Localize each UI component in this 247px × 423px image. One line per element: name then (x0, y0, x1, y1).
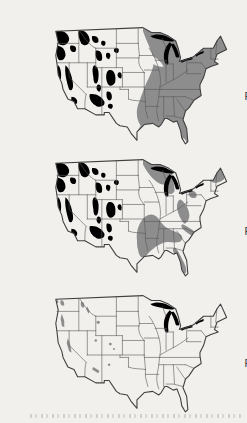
forest-maps-figure: Virgin Forests 1620 Virgin (0, 0, 247, 423)
us-map-today (46, 292, 234, 418)
map-label-1850: Virgin Forests 1850 (236, 213, 247, 249)
map-label-line: Virgin (236, 213, 247, 225)
map-label-line: Virgin (236, 345, 247, 357)
map-label-line: Today (236, 369, 247, 381)
map-label-line: Forests (236, 357, 247, 369)
map-label-line: Forests (236, 225, 247, 237)
map-virgin-forests-today: Virgin Forests Today (46, 292, 247, 423)
map-label-today: Virgin Forests Today (236, 345, 247, 381)
map-label-line: Virgin (236, 78, 247, 90)
map-virgin-forests-1620: Virgin Forests 1620 (46, 24, 247, 156)
us-map-1620 (46, 24, 234, 150)
map-label-line: 1620 (236, 102, 247, 114)
map-label-line: 1850 (236, 237, 247, 249)
map-virgin-forests-1850: Virgin Forests 1850 (46, 156, 247, 288)
us-map-1850 (46, 156, 234, 282)
cropped-caption-fragment (30, 414, 242, 418)
map-label-line: Forests (236, 90, 247, 102)
map-label-1620: Virgin Forests 1620 (236, 78, 247, 114)
